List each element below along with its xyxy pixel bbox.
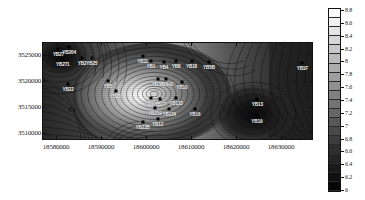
x-tick-bottom — [146, 136, 147, 140]
x-axis-label: 18600000 — [133, 143, 159, 151]
well-marker[interactable] — [149, 59, 152, 62]
well-marker[interactable] — [153, 107, 156, 110]
x-tick-top — [236, 42, 237, 46]
well-marker[interactable] — [90, 57, 93, 60]
well-marker[interactable] — [175, 60, 178, 63]
well-marker[interactable] — [156, 118, 159, 121]
well-marker[interactable] — [256, 98, 259, 101]
well-marker[interactable] — [193, 107, 196, 110]
colorbar-swatch — [329, 118, 340, 127]
y-tick-left — [42, 107, 46, 108]
well-marker[interactable] — [168, 107, 171, 110]
well-label: YB1 — [147, 63, 156, 68]
well-label: YB219 — [148, 111, 162, 116]
colorbar-tick-label: 8 — [345, 58, 348, 64]
x-tick-bottom — [191, 136, 192, 140]
well-marker[interactable] — [141, 120, 144, 123]
well-marker[interactable] — [57, 47, 60, 50]
colorbar-gradient — [328, 8, 341, 192]
well-marker[interactable] — [141, 54, 144, 57]
colorbar-tick-label: 7.8 — [345, 71, 352, 77]
colorbar-swatch — [329, 182, 340, 191]
colorbar-tick — [341, 190, 344, 191]
colorbar-tick — [341, 10, 344, 11]
well-label: YB17 — [155, 101, 166, 106]
x-axis-label: 18590000 — [88, 143, 114, 151]
y-axis-label: 3510000 — [18, 129, 41, 137]
x-axis-label: 18630000 — [268, 143, 294, 151]
colorbar-tick-label: 6.8 — [345, 136, 352, 142]
y-tick-left — [42, 55, 46, 56]
colorbar-swatch — [329, 54, 340, 63]
x-tick-bottom — [56, 136, 57, 140]
y-axis-label: 3520000 — [18, 77, 41, 85]
x-tick-top — [56, 42, 57, 46]
well-label: YB271 — [56, 61, 70, 66]
x-tick-bottom — [101, 136, 102, 140]
y-axis-label: 3525000 — [18, 51, 41, 59]
x-axis-label: 18620000 — [223, 143, 249, 151]
colorbar-tick — [341, 61, 344, 62]
colorbar-tick-label: 8.4 — [345, 33, 352, 39]
colorbar-swatch — [329, 136, 340, 145]
well-marker[interactable] — [162, 60, 165, 63]
well-marker[interactable] — [114, 89, 117, 92]
well-marker[interactable] — [61, 57, 64, 60]
colorbar-tick — [341, 23, 344, 24]
well-label: YB124 — [162, 111, 176, 116]
well-marker[interactable] — [67, 82, 70, 85]
x-tick-top — [101, 42, 102, 46]
well-label: YB22B — [136, 124, 150, 129]
colorbar-tick-label: 7 — [345, 123, 348, 129]
x-axis-label: 18580000 — [43, 143, 69, 151]
colorbar-swatch — [329, 155, 340, 164]
well-marker[interactable] — [175, 97, 178, 100]
well-label: YB5B — [203, 65, 215, 70]
well-label: YB1F — [297, 65, 308, 70]
colorbar-swatch — [329, 145, 340, 154]
well-marker[interactable] — [106, 79, 109, 82]
colorbar-tick-label: 6.4 — [345, 161, 352, 167]
x-tick-top — [146, 42, 147, 46]
colorbar-tick-label: 7.4 — [345, 97, 352, 103]
colorbar-swatch — [329, 164, 340, 173]
well-marker[interactable] — [81, 57, 84, 60]
colorbar-swatch — [329, 73, 340, 82]
colorbar-tick — [341, 139, 344, 140]
well-label: YB4 — [160, 64, 169, 69]
well-marker[interactable] — [207, 61, 210, 64]
x-tick-bottom — [236, 136, 237, 140]
well-label: YB25 — [86, 61, 97, 66]
well-marker[interactable] — [255, 115, 258, 118]
colorbar-tick — [341, 151, 344, 152]
colorbar-swatch — [329, 173, 340, 182]
well-marker[interactable] — [164, 78, 167, 81]
well-marker[interactable] — [150, 97, 153, 100]
colorbar-tick-label: 8.2 — [345, 46, 352, 52]
well-marker[interactable] — [301, 61, 304, 64]
well-label: YB8 — [172, 64, 181, 69]
well-label: YB19 — [251, 119, 262, 124]
well-label: YB123 — [169, 101, 183, 106]
x-axis-label: 18610000 — [178, 143, 204, 151]
colorbar-tick-label: 8.8 — [345, 7, 352, 13]
well-marker[interactable] — [159, 97, 162, 100]
y-tick-right — [309, 133, 313, 134]
colorbar-tick — [341, 49, 344, 50]
colorbar-tick — [341, 177, 344, 178]
colorbar-swatch — [329, 64, 340, 73]
colorbar-tick-label: 7.2 — [345, 110, 352, 116]
well-marker[interactable] — [180, 80, 183, 83]
well-marker[interactable] — [190, 60, 193, 63]
colorbar: 8.88.68.48.287.87.67.47.276.86.66.46.26 — [328, 8, 362, 192]
x-tick-top — [191, 42, 192, 46]
well-marker[interactable] — [68, 46, 71, 49]
well-label: YB10 — [176, 84, 187, 89]
colorbar-swatch — [329, 18, 340, 27]
well-marker[interactable] — [156, 78, 159, 81]
colorbar-swatch — [329, 9, 340, 18]
colorbar-tick — [341, 126, 344, 127]
well-label: YB13 — [252, 102, 263, 107]
x-tick-top — [281, 42, 282, 46]
contour-map-figure: 18580000 18590000 18600000 18610000 1862… — [0, 0, 365, 200]
